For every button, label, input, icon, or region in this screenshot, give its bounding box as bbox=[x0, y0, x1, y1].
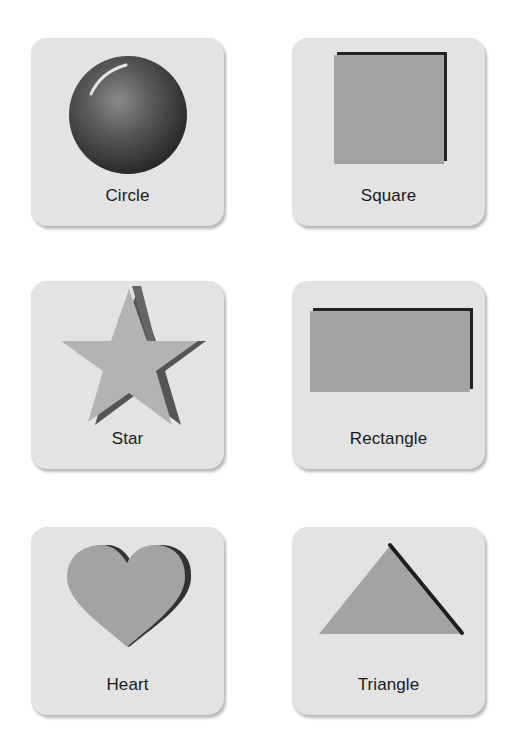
triangle-icon bbox=[292, 527, 485, 677]
rectangle-icon bbox=[292, 281, 485, 431]
heart-icon bbox=[31, 527, 224, 677]
star-icon bbox=[31, 281, 224, 431]
card-label-triangle: Triangle bbox=[292, 675, 485, 695]
card-label-square: Square bbox=[292, 186, 485, 206]
card-label-heart: Heart bbox=[31, 675, 224, 695]
card-square[interactable]: Square bbox=[292, 38, 485, 226]
square-icon bbox=[292, 38, 485, 188]
circle-icon bbox=[31, 38, 224, 188]
card-rectangle[interactable]: Rectangle bbox=[292, 281, 485, 469]
card-label-rectangle: Rectangle bbox=[292, 429, 485, 449]
card-circle[interactable]: Circle bbox=[31, 38, 224, 226]
card-label-circle: Circle bbox=[31, 186, 224, 206]
card-heart[interactable]: Heart bbox=[31, 527, 224, 715]
card-star[interactable]: Star bbox=[31, 281, 224, 469]
card-label-star: Star bbox=[31, 429, 224, 449]
card-triangle[interactable]: Triangle bbox=[292, 527, 485, 715]
